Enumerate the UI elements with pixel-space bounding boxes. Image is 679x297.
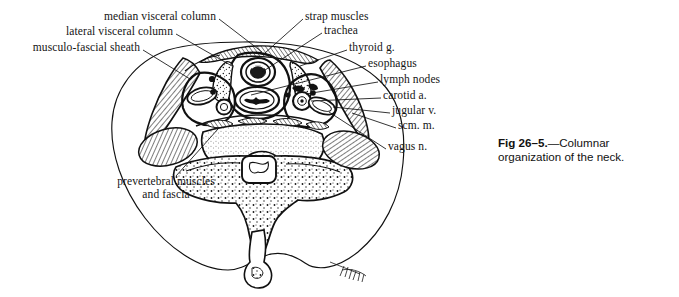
caption-dash: — [548,136,560,149]
label-scm-muscle: scm. m. [398,119,435,131]
label-esophagus: esophagus [368,57,417,69]
spinal-cord [242,156,276,183]
label-prevertebral-line1: prevertebral muscles [91,175,241,188]
figure-number: Fig 26–5. [498,136,548,149]
carotid-artery-left [217,100,232,115]
figure-page: median visceral column lateral visceral … [0,0,679,297]
label-thyroid-gland: thyroid g. [349,41,395,53]
label-trachea: trachea [324,24,358,36]
label-prevertebral-muscles-and-fascia: prevertebral muscles and fascia [91,175,241,200]
figure-caption: Fig 26–5.—Columnar organization of the n… [498,136,674,164]
label-musculo-fascial-sheath: musculo-fascial sheath [33,41,140,53]
label-lymph-nodes: lymph nodes [380,73,440,85]
label-jugular-vein: jugular v. [392,104,436,116]
label-vagus-nerve: vagus n. [388,140,427,152]
caption-text-line2: of the neck. [564,150,624,163]
label-lateral-visceral-column: lateral visceral column [66,25,173,37]
label-carotid-artery: carotid a. [383,89,427,101]
label-median-visceral-column: median visceral column [104,10,216,22]
label-strap-muscles: strap muscles [305,10,369,22]
trachea [241,58,275,86]
esophagus [235,87,279,113]
label-prevertebral-line2: and fascia [91,188,241,201]
